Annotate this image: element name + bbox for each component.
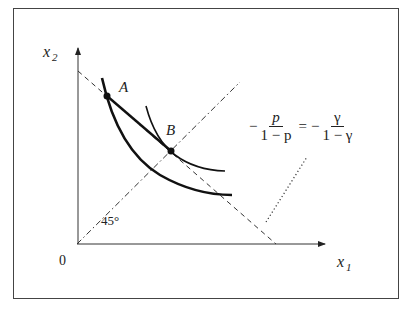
x-axis-label: x1 (337, 254, 352, 270)
lhs-sign: − (249, 119, 257, 134)
rhs-sign: − (311, 119, 319, 134)
point-a-label: A (119, 80, 128, 95)
lhs-fraction: p 1 − p (260, 110, 291, 143)
point-b-label: B (166, 123, 175, 138)
y-axis-label: x2 (43, 44, 58, 60)
equals-sign: = (298, 119, 306, 134)
point-b (168, 148, 175, 155)
slope-equation: − p 1 − p = − γ 1 − γ (249, 110, 355, 143)
point-a (104, 93, 111, 100)
rhs-fraction: γ 1 − γ (322, 110, 352, 143)
angle-label: 45° (101, 214, 119, 227)
slope-dotted-line (266, 157, 307, 222)
origin-label: 0 (59, 254, 66, 268)
